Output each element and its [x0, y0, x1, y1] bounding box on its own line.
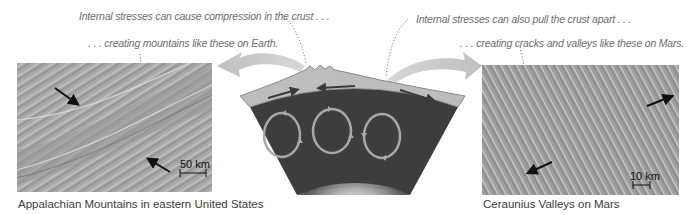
curved-arrow-to-earth-icon [217, 52, 305, 77]
scale-bar-mars: 10 km [630, 170, 660, 182]
callout-pull-apart: Internal stresses can also pull the crus… [416, 13, 631, 25]
caption-appalachian: Appalachian Mountains in eastern United … [18, 198, 264, 210]
curved-arrow-to-mars-icon [385, 52, 482, 86]
leader-line-cracks [520, 47, 524, 65]
leader-line-mountains [140, 54, 141, 63]
caption-ceraunius: Ceraunius Valleys on Mars [483, 198, 620, 210]
callout-mountains: . . . creating mountains like these on E… [88, 37, 278, 49]
appalachian-photo [17, 63, 212, 192]
planet-cross-section [240, 65, 470, 215]
diagram-canvas [0, 0, 697, 215]
callout-compression: Internal stresses can cause compression … [79, 10, 329, 22]
scale-bar-earth: 50 km [180, 158, 210, 170]
callout-cracks: . . . creating cracks and valleys like t… [460, 37, 684, 49]
